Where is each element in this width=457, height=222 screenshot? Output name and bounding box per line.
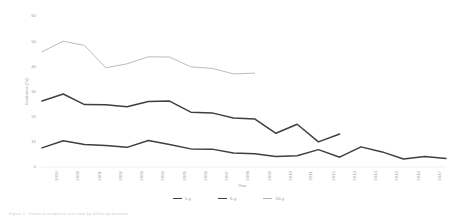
legend-item-10-y[interactable]: 10-y <box>263 196 284 201</box>
x-axis-tick-label: 2000 <box>75 171 80 181</box>
x-axis-tick-label: 2012 <box>330 171 335 181</box>
y-axis-tick-label: 50 <box>22 39 36 44</box>
x-axis-tick-label: 2005 <box>181 171 186 181</box>
x-axis-tick-label: 2014 <box>373 171 378 181</box>
x-axis-title: Year <box>238 183 247 188</box>
x-axis-tick-label: 2002 <box>118 171 123 181</box>
x-axis-tick-label: 2013 <box>352 171 357 181</box>
x-axis-tick-label: 2003 <box>139 171 144 181</box>
x-axis-tick-label: 2015 <box>394 171 399 181</box>
y-axis-title: Incidence (%) <box>24 69 29 113</box>
chart-legend: 1-y5-y10-y <box>0 196 457 201</box>
x-axis-tick-label: 2017 <box>437 171 442 181</box>
x-axis-tick-label: 2004 <box>160 171 165 181</box>
plot-area <box>0 0 457 222</box>
legend-line-swatch <box>173 198 182 199</box>
y-axis-tick-label: 60 <box>22 13 36 18</box>
y-axis-tick-label: 20 <box>22 114 36 119</box>
x-axis-tick-label: 2009 <box>266 171 271 181</box>
legend-item-1-y[interactable]: 1-y <box>173 196 191 201</box>
x-axis-tick-label: 2011 <box>309 171 314 180</box>
y-axis-tick-label: 0 <box>22 164 36 169</box>
figure-caption: Figure 1. Trends in incidence over time … <box>9 211 239 217</box>
x-axis-tick-label: 2010 <box>288 171 293 181</box>
series-line-1-y <box>42 141 446 159</box>
x-axis-tick-label: 2007 <box>224 171 229 181</box>
y-axis-tick-label: 10 <box>22 139 36 144</box>
legend-line-swatch <box>263 198 272 199</box>
y-axis-tick-label: 40 <box>22 64 36 69</box>
legend-label: 5-y <box>230 196 236 201</box>
x-axis-tick-label: 2001 <box>96 171 101 181</box>
series-line-10-y <box>42 41 255 74</box>
x-axis-tick-label: 2006 <box>203 171 208 181</box>
x-axis-tick-label: 2008 <box>245 171 250 181</box>
series-line-5-y <box>42 94 340 142</box>
legend-label: 1-y <box>185 196 191 201</box>
x-axis-tick-label: 2016 <box>415 171 420 181</box>
x-axis-tick-label: 1999 <box>54 171 59 181</box>
legend-item-5-y[interactable]: 5-y <box>218 196 236 201</box>
legend-line-swatch <box>218 198 227 199</box>
line-chart-figure: 0102030405060 19992000200120022003200420… <box>0 0 457 222</box>
legend-label: 10-y <box>275 196 284 201</box>
